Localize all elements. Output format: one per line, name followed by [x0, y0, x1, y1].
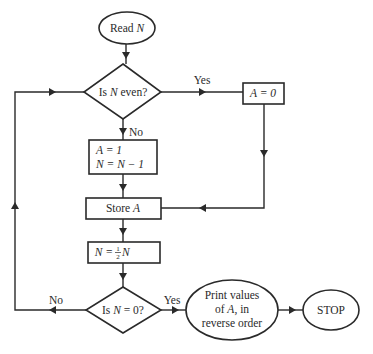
- svg-text:Is N = 0?: Is N = 0?: [102, 304, 144, 316]
- arrow-down-icon: [119, 228, 127, 235]
- label-even-no: No: [129, 126, 143, 138]
- svg-text:N =: N =: [94, 246, 113, 258]
- edge-zero-to-store: [161, 104, 264, 208]
- node-read-n: Read N: [99, 12, 155, 44]
- arrow-down-icon: [119, 184, 127, 191]
- arrow-left-icon: [49, 306, 56, 314]
- svg-text:Is N even?: Is N even?: [99, 86, 148, 98]
- node-stop: STOP: [303, 290, 359, 330]
- arrow-right-icon: [289, 306, 296, 314]
- node-is-n-even: Is N even?: [84, 64, 161, 119]
- node-set-a-one: A = 1 N = N − 1: [89, 140, 157, 174]
- flowchart: Yes No No Yes Read N Is N even? A = 0 A …: [0, 0, 373, 354]
- svg-text:A = 0: A = 0: [249, 87, 276, 99]
- label-even-yes: Yes: [194, 74, 211, 86]
- svg-text:Read N: Read N: [110, 22, 146, 34]
- node-print-values: Print values of A, in reverse order: [186, 280, 278, 340]
- edge-zero-no-loop: [15, 92, 86, 310]
- arrow-down-icon: [119, 128, 127, 135]
- svg-text:1: 1: [116, 245, 120, 253]
- arrow-down-icon: [260, 150, 268, 157]
- svg-text:2: 2: [116, 253, 120, 261]
- arrow-left-icon: [199, 204, 206, 212]
- svg-text:reverse order: reverse order: [202, 317, 263, 329]
- svg-text:STOP: STOP: [317, 304, 345, 316]
- svg-text:N: N: [121, 246, 131, 258]
- svg-text:Print values: Print values: [205, 289, 260, 301]
- node-is-n-zero: Is N = 0?: [86, 287, 161, 333]
- node-set-a-zero: A = 0: [243, 83, 284, 104]
- node-halve-n: N = 1 2 N: [88, 242, 160, 263]
- arrow-right-icon: [172, 306, 179, 314]
- label-zero-no: No: [49, 294, 63, 306]
- svg-text:of A, in: of A, in: [215, 303, 249, 316]
- svg-text:A = 1: A = 1: [95, 144, 122, 156]
- svg-text:Store A: Store A: [106, 202, 141, 214]
- arrow-down-icon: [119, 273, 127, 280]
- svg-text:N = N − 1: N = N − 1: [95, 158, 144, 170]
- arrow-up-icon: [11, 202, 19, 209]
- arrow-right-icon: [199, 88, 206, 96]
- arrow-right-icon: [49, 88, 56, 96]
- node-store-a: Store A: [86, 198, 161, 219]
- arrow-down-icon: [122, 52, 130, 59]
- label-zero-yes: Yes: [164, 294, 181, 306]
